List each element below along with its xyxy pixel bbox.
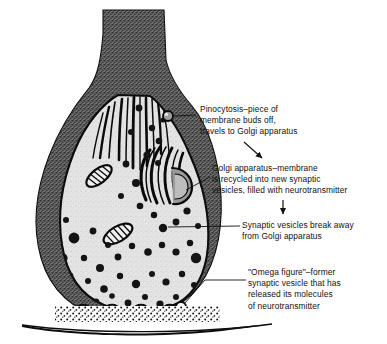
neurotransmitter-molecules <box>55 306 220 322</box>
synaptic-terminal-figure: Pinocytosis–piece of membrane buds off, … <box>0 0 387 344</box>
pinocytosis-vesicle <box>163 111 173 121</box>
callout-golgi: Golgi apparatus–membrane is recycled int… <box>212 163 387 197</box>
callout-omega-figure: "Omega figure"–former synaptic vesicle t… <box>248 267 387 312</box>
arrow-to-golgi-text <box>244 142 262 158</box>
postsynaptic-membrane <box>22 324 272 335</box>
callout-synaptic-vesicles: Synaptic vesicles break away from Golgi … <box>242 220 387 242</box>
callout-pinocytosis: Pinocytosis–piece of membrane buds off, … <box>200 104 380 138</box>
